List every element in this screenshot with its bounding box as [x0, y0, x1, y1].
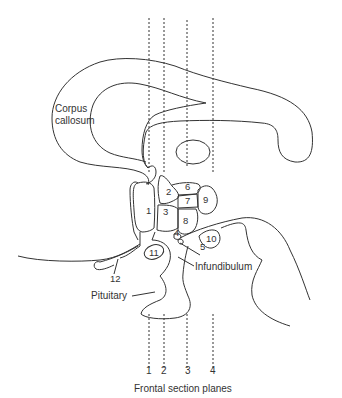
plane-1-label: 1 — [146, 365, 152, 376]
region-5-label: 5 — [200, 241, 205, 252]
region-3-label: 3 — [163, 206, 168, 217]
section-planes-upper — [149, 18, 213, 172]
infundibulum-label: Infundibulum — [195, 261, 252, 272]
caption: Frontal section planes — [134, 383, 232, 394]
corpus-label-1: Corpus — [55, 103, 87, 114]
region-6-label: 6 — [185, 181, 190, 192]
region-9-label: 9 — [203, 194, 208, 205]
pituitary-label: Pituitary — [91, 290, 127, 301]
plane-2-label: 2 — [161, 365, 167, 376]
corpus-label-2: callosum — [55, 115, 94, 126]
region-8-label: 8 — [183, 215, 188, 226]
thalamic-adhesion — [176, 140, 210, 164]
section-planes-lower — [149, 314, 213, 368]
region-1 — [133, 182, 155, 232]
region-4-label: 4 — [174, 227, 179, 238]
region-1-label: 1 — [146, 205, 151, 216]
plane-4-label: 4 — [210, 365, 216, 376]
sagittal-brain-diagram: Corpus callosum Infundibulum Pituitary 1… — [0, 0, 342, 398]
region-2-label: 2 — [166, 186, 171, 197]
region-12-label: 12 — [110, 273, 121, 284]
plane-3-label: 3 — [185, 365, 191, 376]
region-11-label: 11 — [149, 247, 159, 258]
region-12 — [94, 262, 114, 270]
region-10-label: 10 — [206, 233, 217, 244]
region-7-label: 7 — [185, 195, 190, 206]
